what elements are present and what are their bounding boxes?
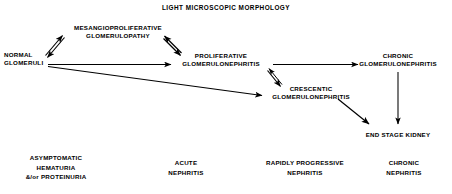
node-mesangioproliferative-line2: GLOMERULOPATHY [74, 32, 162, 40]
clinical-asymptomatic-line1: ASYMPTOMATIC [26, 153, 87, 163]
node-end-stage-kidney-line1: END STAGE KIDNEY [366, 131, 431, 139]
node-chronic-line2: GLOMERULONEPHRITIS [359, 60, 437, 68]
edge-crescentic-to-proliferative [269, 69, 282, 85]
clinical-label-chronic-nephritis: CHRONIC NEPHRITIS [386, 158, 421, 177]
edge-normal-to-mesangioproliferative [46, 36, 63, 56]
node-proliferative-line1: PROLIFERATIVE [182, 52, 260, 60]
clinical-acute-line2: NEPHRITIS [168, 168, 203, 178]
node-end-stage-kidney[interactable]: END STAGE KIDNEY [366, 131, 431, 139]
diagram-canvas: LIGHT MICROSCOPIC MORPHOLOGY [0, 0, 452, 194]
clinical-acute-line1: ACUTE [168, 158, 203, 168]
clinical-asymptomatic-line2: HEMATURIA [26, 163, 87, 173]
edge-crescentic-to-end-stage [338, 99, 369, 124]
clinical-label-asymptomatic-hematuria-proteinuria: ASYMPTOMATIC HEMATURIA &/or PROTEINURIA [26, 153, 87, 182]
node-crescentic-glomerulonephritis[interactable]: CRESCENTIC GLOMERULONEPHRITIS [272, 85, 350, 102]
node-proliferative-glomerulonephritis[interactable]: PROLIFERATIVE GLOMERULONEPHRITIS [182, 52, 260, 69]
edge-proliferative-to-mesangioproliferative [165, 36, 182, 53]
clinical-label-acute-nephritis: ACUTE NEPHRITIS [168, 158, 203, 177]
node-normal-glomeruli-line1: NORMAL [4, 51, 43, 59]
node-mesangioproliferative-glomerulopathy[interactable]: MESANGIOPROLIFERATIVE GLOMERULOPATHY [74, 24, 162, 41]
edge-normal-to-crescentic [48, 67, 262, 96]
node-crescentic-line1: CRESCENTIC [272, 85, 350, 93]
diagram-title: LIGHT MICROSCOPIC MORPHOLOGY [162, 4, 290, 11]
clinical-label-rapidly-progressive-nephritis: RAPIDLY PROGRESSIVE NEPHRITIS [266, 158, 344, 177]
node-mesangioproliferative-line1: MESANGIOPROLIFERATIVE [74, 24, 162, 32]
clinical-chronic-line1: CHRONIC [386, 158, 421, 168]
node-normal-glomeruli-line2: GLOMERULI [4, 59, 43, 67]
edge-mesangioproliferative-to-proliferative [164, 39, 181, 56]
node-chronic-line1: CHRONIC [359, 52, 437, 60]
clinical-asymptomatic-line3: &/or PROTEINURIA [26, 172, 87, 182]
node-chronic-glomerulonephritis[interactable]: CHRONIC GLOMERULONEPHRITIS [359, 52, 437, 69]
edge-mesangioproliferative-to-normal [48, 38, 65, 58]
node-proliferative-line2: GLOMERULONEPHRITIS [182, 60, 260, 68]
node-crescentic-line2: GLOMERULONEPHRITIS [272, 93, 350, 101]
node-normal-glomeruli[interactable]: NORMAL GLOMERULI [4, 51, 43, 68]
clinical-rapidly-progressive-line1: RAPIDLY PROGRESSIVE [266, 158, 344, 168]
clinical-rapidly-progressive-line2: NEPHRITIS [266, 168, 344, 178]
clinical-chronic-line2: NEPHRITIS [386, 168, 421, 178]
